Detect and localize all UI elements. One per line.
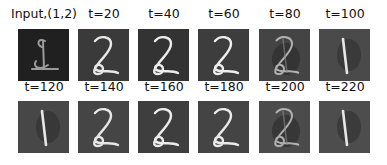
- digit-render: [78, 101, 129, 153]
- digit-image: [78, 29, 129, 81]
- digit-image: [319, 29, 370, 81]
- digit-render: [259, 29, 310, 81]
- digit-render: [319, 101, 370, 153]
- digit-render: [78, 29, 129, 81]
- digit-image: [78, 101, 129, 153]
- digit-render: [198, 101, 249, 153]
- digit-image: [138, 29, 189, 81]
- digit-image: [259, 29, 310, 81]
- digit-image: [18, 29, 69, 81]
- digit-image: [138, 101, 189, 153]
- digit-render: [18, 101, 69, 153]
- digit-render: [18, 29, 69, 81]
- cell-label: t=100: [309, 7, 381, 21]
- digit-image: [18, 101, 69, 153]
- digit-render: [259, 101, 310, 153]
- digit-render: [138, 101, 189, 153]
- digit-render: [319, 29, 370, 81]
- cell-label: t=220: [309, 80, 381, 94]
- digit-image: [259, 101, 310, 153]
- digit-render: [138, 29, 189, 81]
- digit-image: [198, 29, 249, 81]
- digit-render: [198, 29, 249, 81]
- digit-image: [198, 101, 249, 153]
- digit-image: [319, 101, 370, 153]
